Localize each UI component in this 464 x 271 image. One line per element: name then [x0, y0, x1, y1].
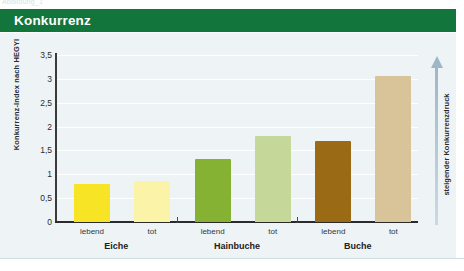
x-group-label: Hainbuche: [177, 241, 298, 251]
y-tick-label: 2: [47, 122, 52, 132]
y-tick-label: 3: [47, 74, 52, 84]
y-axis-tick-labels: 00,511,522,533,5: [22, 0, 52, 271]
group-separator: [177, 217, 178, 223]
y-tick-label: 3,5: [40, 50, 52, 60]
bar-eiche-tot: [134, 181, 170, 223]
panel-bottom-divider: [0, 258, 464, 259]
x-group-label: Eiche: [56, 241, 177, 251]
x-sub-label: tot: [255, 227, 291, 236]
y-tick-label: 2,5: [40, 98, 52, 108]
y-tick-label: 1: [47, 169, 52, 179]
y-axis-title: Konkurrenz-Index nach HEGYI: [12, 35, 21, 155]
y-tick-label: 0: [47, 217, 52, 227]
group-separator: [297, 217, 298, 223]
bar-hainbuche-lebend: [195, 159, 231, 222]
arrow-label: steigender Konkurrenzdruck: [442, 80, 451, 210]
x-sub-label: tot: [134, 227, 170, 236]
arrow-shaft: [435, 67, 438, 225]
x-sub-label: lebend: [195, 227, 231, 236]
bar-eiche-lebend: [74, 184, 110, 222]
bar-hainbuche-tot: [255, 136, 291, 222]
x-sub-label: lebend: [74, 227, 110, 236]
section-header-band: Konkurrenz: [0, 9, 456, 32]
bar-buche-lebend: [315, 141, 351, 222]
y-tick-label: 1,5: [40, 145, 52, 155]
y-tick-label: 0,5: [40, 193, 52, 203]
chart-page: Abbildung_1 Konkurrenz 00,511,522,533,5 …: [0, 0, 464, 271]
x-sub-label: lebend: [315, 227, 351, 236]
x-group-label: Buche: [297, 241, 418, 251]
x-sub-label: tot: [375, 227, 411, 236]
bar-buche-tot: [375, 76, 411, 222]
bar-series-layer: [56, 55, 418, 222]
